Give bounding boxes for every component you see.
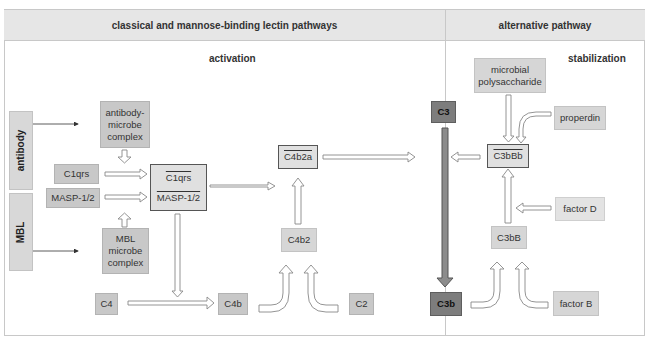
hollow-arrow bbox=[118, 213, 131, 227]
hollow-arrow bbox=[471, 262, 504, 308]
hollow-arrow bbox=[105, 192, 147, 202]
hollow-arrow bbox=[172, 214, 183, 297]
hollow-arrow bbox=[118, 150, 131, 163]
hollow-arrow bbox=[105, 169, 147, 179]
hollow-arrow bbox=[451, 152, 480, 162]
hollow-arrow bbox=[292, 178, 304, 224]
hollow-arrow bbox=[502, 169, 514, 223]
hollow-arrow bbox=[516, 203, 551, 213]
hollow-arrow bbox=[210, 182, 275, 190]
hollow-arrow bbox=[128, 297, 214, 309]
hollow-arrow bbox=[515, 262, 548, 308]
hollow-arrow bbox=[304, 265, 338, 312]
arrows-layer bbox=[0, 0, 652, 340]
hollow-arrow bbox=[503, 95, 514, 142]
hollow-arrow bbox=[516, 112, 551, 143]
hollow-arrow bbox=[259, 265, 293, 312]
c3-to-c3b-arrow bbox=[437, 128, 453, 287]
hollow-arrow bbox=[323, 152, 415, 162]
